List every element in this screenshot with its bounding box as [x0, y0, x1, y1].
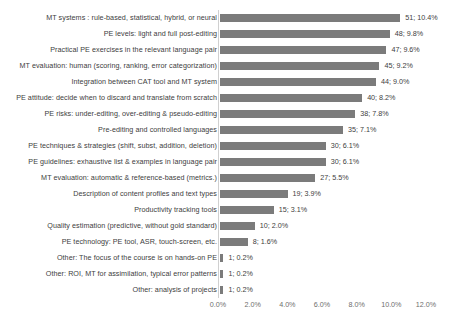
bar-track: 38; 7.8%	[220, 110, 456, 118]
bar	[220, 286, 223, 294]
bar-row: MT evaluation: human (scoring, ranking, …	[0, 58, 456, 74]
x-axis-tick-label: 10.0%	[381, 299, 401, 311]
bar-row: PE guidelines: exhaustive list & example…	[0, 154, 456, 170]
bar-row: PE techniques & strategies (shift, subst…	[0, 138, 456, 154]
bar-value-label: 8; 1.6%	[253, 237, 277, 247]
bar-row: Description of content profiles and text…	[0, 186, 456, 202]
x-axis: 0.0%2.0%4.0%6.0%8.0%10.0%12.0%	[0, 299, 456, 315]
category-label: Other: The focus of the course is on han…	[3, 252, 217, 264]
category-label: MT systems : rule-based, statistical, hy…	[3, 12, 217, 24]
bar-value-label: 19; 3.9%	[293, 189, 321, 199]
bar	[220, 222, 255, 230]
bar-track: 30; 6.1%	[220, 158, 456, 166]
bar	[220, 142, 326, 150]
bar	[220, 238, 248, 246]
x-axis-tick-label: 4.0%	[279, 299, 295, 311]
bar-track: 30; 6.1%	[220, 142, 456, 150]
bar-value-label: 30; 6.1%	[331, 141, 359, 151]
bar-row: PE technology: PE tool, ASR, touch-scree…	[0, 234, 456, 250]
bar-value-label: 1; 0.2%	[228, 253, 252, 263]
x-axis-tick-label: 0.0%	[210, 299, 226, 311]
bar-row: Other: The focus of the course is on han…	[0, 250, 456, 266]
bar-track: 15; 3.1%	[220, 206, 456, 214]
bar-row: Productivity tracking tools15; 3.1%	[0, 202, 456, 218]
bar	[220, 46, 386, 54]
bar-value-label: 35; 7.1%	[348, 125, 376, 135]
bar-row: MT systems : rule-based, statistical, hy…	[0, 10, 456, 26]
bar-value-label: 30; 6.1%	[331, 157, 359, 167]
bar-value-label: 1; 0.2%	[228, 269, 252, 279]
bar-value-label: 38; 7.8%	[360, 109, 388, 119]
bar	[220, 110, 355, 118]
category-label: PE risks: under-editing, over-editing & …	[3, 108, 217, 120]
category-label: Productivity tracking tools	[3, 204, 217, 216]
bar-track: 35; 7.1%	[220, 126, 456, 134]
bar-row: PE risks: under-editing, over-editing & …	[0, 106, 456, 122]
category-label: Integration between CAT tool and MT syst…	[3, 76, 217, 88]
bar-track: 8; 1.6%	[220, 238, 456, 246]
bar-track: 47; 9.6%	[220, 46, 456, 54]
category-label: PE technology: PE tool, ASR, touch-scree…	[3, 236, 217, 248]
category-label: Other: analysis of projects	[3, 284, 217, 296]
bar	[220, 30, 390, 38]
bar	[220, 254, 223, 262]
bar-value-label: 48; 9.8%	[395, 29, 423, 39]
bar-row: Pre-editing and controlled languages35; …	[0, 122, 456, 138]
category-label: Quality estimation (predictive, without …	[3, 220, 217, 232]
x-axis-tick-label: 2.0%	[244, 299, 260, 311]
category-label: Description of content profiles and text…	[3, 188, 217, 200]
bar	[220, 206, 274, 214]
bar-track: 51; 10.4%	[220, 14, 456, 22]
bar-row: Quality estimation (predictive, without …	[0, 218, 456, 234]
category-label: Pre-editing and controlled languages	[3, 124, 217, 136]
bar-row: MT evaluation: automatic & reference-bas…	[0, 170, 456, 186]
bar-value-label: 27; 5.5%	[320, 173, 348, 183]
x-axis-tick-label: 6.0%	[314, 299, 330, 311]
bar	[220, 174, 315, 182]
bar-track: 48; 9.8%	[220, 30, 456, 38]
bar-row: Integration between CAT tool and MT syst…	[0, 74, 456, 90]
bar	[220, 62, 379, 70]
bar	[220, 158, 326, 166]
bar-track: 45; 9.2%	[220, 62, 456, 70]
bar-value-label: 45; 9.2%	[384, 61, 412, 71]
x-axis-tick-label: 8.0%	[348, 299, 364, 311]
bar-track: 27; 5.5%	[220, 174, 456, 182]
bar-row: PE levels: light and full post-editing48…	[0, 26, 456, 42]
bar-value-label: 1; 0.2%	[228, 285, 252, 295]
bar	[220, 126, 343, 134]
bar	[220, 94, 362, 102]
category-label: MT evaluation: human (scoring, ranking, …	[3, 60, 217, 72]
bar-chart: MT systems : rule-based, statistical, hy…	[0, 0, 456, 327]
x-axis-tick-label: 12.0%	[416, 299, 436, 311]
bar-value-label: 15; 3.1%	[279, 205, 307, 215]
bar-track: 1; 0.2%	[220, 286, 456, 294]
bar-row: Practical PE exercises in the relevant l…	[0, 42, 456, 58]
category-label: PE techniques & strategies (shift, subst…	[3, 140, 217, 152]
bar-value-label: 47; 9.6%	[391, 45, 419, 55]
bar-value-label: 10; 2.0%	[260, 221, 288, 231]
category-label: PE attitude: decide when to discard and …	[3, 92, 217, 104]
bar-track: 40; 8.2%	[220, 94, 456, 102]
category-label: MT evaluation: automatic & reference-bas…	[3, 172, 217, 184]
bar-value-label: 44; 9.0%	[381, 77, 409, 87]
category-label: Other: ROI, MT for assimilation, typical…	[3, 268, 217, 280]
plot-area: MT systems : rule-based, statistical, hy…	[0, 0, 456, 327]
bar-track: 10; 2.0%	[220, 222, 456, 230]
bar-track: 1; 0.2%	[220, 270, 456, 278]
category-label: PE levels: light and full post-editing	[3, 28, 217, 40]
bar-value-label: 51; 10.4%	[405, 13, 437, 23]
bar-rows: MT systems : rule-based, statistical, hy…	[0, 10, 456, 298]
bar	[220, 78, 376, 86]
bar-row: PE attitude: decide when to discard and …	[0, 90, 456, 106]
bar-row: Other: analysis of projects1; 0.2%	[0, 282, 456, 298]
bar	[220, 14, 400, 22]
bar-track: 19; 3.9%	[220, 190, 456, 198]
category-label: Practical PE exercises in the relevant l…	[3, 44, 217, 56]
bar-track: 1; 0.2%	[220, 254, 456, 262]
bar	[220, 190, 288, 198]
bar-row: Other: ROI, MT for assimilation, typical…	[0, 266, 456, 282]
bar	[220, 270, 223, 278]
bar-track: 44; 9.0%	[220, 78, 456, 86]
bar-value-label: 40; 8.2%	[367, 93, 395, 103]
